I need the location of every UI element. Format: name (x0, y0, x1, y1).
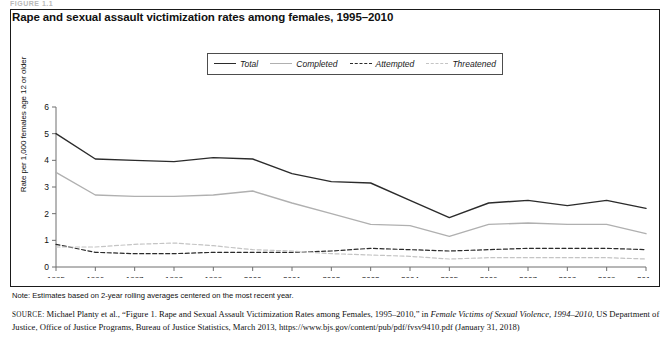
x-axis-tick-label: 2002 (322, 275, 340, 278)
x-axis-tick-label: 2003 (362, 275, 380, 278)
x-axis-tick-label: 1997 (126, 275, 144, 278)
source-text-1: Michael Planty et al., “Figure 1. Rape a… (44, 309, 430, 319)
y-axis-tick-label: 4 (44, 155, 49, 165)
source-italic-title: Female Victims of Sexual Violence, 1994–… (430, 309, 591, 319)
x-axis-tick-label: 1996 (86, 275, 104, 278)
source-prefix: SOURCE: (12, 311, 44, 319)
x-axis-tick-label: 2009 (598, 275, 616, 278)
x-axis-tick-label: 1999 (204, 275, 222, 278)
y-axis-tick-label: 1 (44, 235, 49, 245)
x-axis-tick-label: 1995 (47, 275, 65, 278)
chart-note: Note: Estimates based on 2-year rolling … (12, 291, 294, 300)
x-axis-tick-label: 2006 (480, 275, 498, 278)
figure-page: FIGURE 1.1 Rape and sexual assault victi… (0, 0, 670, 349)
y-axis-tick-label: 2 (44, 209, 49, 219)
series-line-attempted (56, 244, 646, 253)
x-axis-tick-label: 1998 (165, 275, 183, 278)
x-axis-tick-label: 2005 (440, 275, 458, 278)
y-axis-tick-label: 0 (44, 262, 49, 272)
x-axis-tick-label: 2000 (244, 275, 262, 278)
y-axis-tick-label: 5 (44, 129, 49, 139)
x-axis-tick-label: 2008 (558, 275, 576, 278)
x-axis-tick-label: 2004 (401, 275, 419, 278)
chart-source: SOURCE: Michael Planty et al., “Figure 1… (12, 309, 664, 333)
line-chart-svg: 0123456199519961997199819992000200120022… (0, 0, 650, 278)
x-axis-tick-label: 2001 (283, 275, 301, 278)
series-line-total (56, 134, 646, 218)
y-axis-tick-label: 3 (44, 182, 49, 192)
y-axis-tick-label: 6 (44, 102, 49, 112)
x-axis-tick-label: 2010 (637, 275, 650, 278)
chart-plot-area: Rate per 1,000 females age 12 or older 0… (0, 0, 650, 278)
x-axis-tick-label: 2007 (519, 275, 537, 278)
series-line-threatened (56, 243, 646, 259)
